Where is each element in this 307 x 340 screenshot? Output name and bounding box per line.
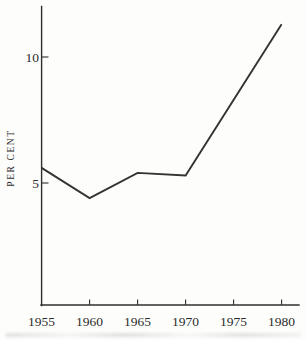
- x-tick-label: 1970: [172, 314, 199, 329]
- x-tick-label: 1980: [268, 314, 295, 329]
- x-ticks: 195519601965197019751980: [28, 300, 295, 330]
- y-axis-title: PER CENT: [6, 129, 16, 186]
- x-tick-label: 1955: [28, 314, 55, 329]
- x-tick-label: 1965: [124, 314, 151, 329]
- line-chart-figure: 510 195519601965197019751980 PER CENT: [0, 0, 307, 340]
- chart-svg: 510 195519601965197019751980 PER CENT: [0, 0, 307, 340]
- data-line: [42, 24, 282, 198]
- x-tick-label: 1960: [76, 314, 103, 329]
- x-tick-label: 1975: [220, 314, 247, 329]
- y-tick-label: 10: [26, 50, 40, 65]
- y-tick-label: 5: [32, 176, 39, 191]
